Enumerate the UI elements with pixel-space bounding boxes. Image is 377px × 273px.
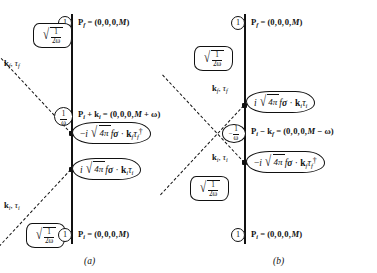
initial-state-momentum-b: Pi = (0, 0, 0, M) <box>251 230 302 240</box>
initial-state-renorm-b: 1 <box>231 228 245 242</box>
panel-a-caption: (a) <box>84 256 95 266</box>
incoming-pion-norm-b: √12ω <box>190 176 229 201</box>
intermediate-propagator-b: −1ω <box>222 124 246 143</box>
final-state-momentum-a: Pf = (0, 0, 0, M) <box>78 18 129 28</box>
initial-state-renorm-a: 1 <box>58 228 72 242</box>
radical-glyph: √12ω <box>42 27 64 45</box>
incoming-pion-label-b: ki, τi <box>212 153 228 163</box>
emission-vertex-blob-b: −i √4πfσ · kfτf† <box>246 151 325 173</box>
intermediate-propagator-a: 1ω <box>54 107 73 126</box>
incoming-pion-label-a: ki, τi <box>4 201 20 211</box>
initial-state-momentum-a: Pi = (0, 0, 0, M) <box>78 230 129 240</box>
final-state-renorm-b: 1 <box>231 16 245 30</box>
outgoing-pion-norm-b: √12ω <box>194 46 233 71</box>
panel-b: 1 Pf = (0, 0, 0, M) √12ω kf, τf i √4πfσ … <box>189 0 377 273</box>
panel-a: 1 Pf = (0, 0, 0, M) √12ω kf, τf −i √4πfσ… <box>0 0 188 273</box>
panel-b-caption: (b) <box>273 256 284 266</box>
outgoing-pion-norm-a: √12ω <box>33 23 72 48</box>
emission-vertex-blob-a: −i √4πfσ · kfτf† <box>72 122 151 144</box>
absorption-vertex-blob-a: i √4πfσ · kiτi <box>72 158 141 180</box>
absorption-vertex-blob-b: i √4πfσ · kiτi <box>246 91 315 113</box>
final-state-momentum-b: Pf = (0, 0, 0, M) <box>251 18 302 28</box>
outgoing-pion-label-a: kf, τf <box>4 59 20 69</box>
intermediate-state-momentum-b: Pi − kf = (0, 0, 0, M − ω) <box>251 127 334 137</box>
intermediate-state-momentum-a: Pi + ki = (0, 0, 0, M + ω) <box>78 110 160 120</box>
outgoing-pion-label-b: kf, τf <box>212 84 228 94</box>
feynman-diagram-figure: 1 Pf = (0, 0, 0, M) √12ω kf, τf −i √4πfσ… <box>0 0 377 273</box>
